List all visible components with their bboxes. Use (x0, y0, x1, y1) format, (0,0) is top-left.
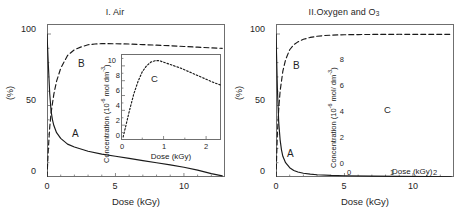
panel-2-inset-y-axis-label: Concentration (10-6 mol/ dm-3) (327, 67, 338, 168)
panel-1-curve-label-a: A (72, 128, 79, 139)
panel-2-xtick-5: 5 (331, 181, 357, 191)
panel-2-xtick-10: 10 (400, 181, 426, 191)
panel-1-xtick-0: 0 (34, 181, 60, 191)
panel-2-curve-label-a: A (287, 148, 294, 159)
panel-1-xtick-10: 10 (171, 181, 197, 191)
panel-2-curve-label-b: B (293, 60, 300, 71)
panel-1-title-text: I. Air (106, 7, 125, 17)
panel-1-inset-curve-label-c: C (151, 73, 158, 84)
panel-1-inset-xtick-2: 2 (198, 142, 214, 151)
panel-2-title-sub: 3 (376, 10, 380, 17)
panel-2-inset-ytick-8: 8 (328, 55, 344, 64)
panel-2-inset-x-axis-label: Dose (kGy) (392, 167, 432, 176)
panel-1-inset-y-axis-label: Concentration (10-6 mol dm-3) (100, 64, 111, 163)
panel-oxygen-ozone: II.Oxygen and O3 0 50 100 0 5 10 (%) Dos… (229, 0, 459, 224)
panel-2-y-axis-label: (%) (234, 86, 244, 100)
panel-2-ytick-100: 100 (239, 24, 265, 34)
panel-2-title-text: II.Oxygen and O (309, 7, 376, 17)
panel-air: I. Air 0 50 100 0 5 10 (%) Dose (kGy) B … (0, 0, 230, 224)
panel-2-plot-area (276, 24, 454, 177)
panel-2-x-axis-label: Dose (kGy) (276, 196, 454, 207)
panel-1-xtick-5: 5 (102, 181, 128, 191)
panel-1-x-axis-label: Dose (kGy) (47, 196, 225, 207)
panel-1-y-axis-label: (%) (5, 86, 15, 100)
panel-1-inset-x-axis-label: Dose (kGy) (121, 152, 221, 161)
panel-1-ytick-0: 0 (10, 166, 36, 176)
panel-2-inset-curve-label-c: C (384, 104, 391, 115)
panel-2-xtick-0: 0 (263, 181, 289, 191)
panel-1-ytick-100: 100 (10, 24, 36, 34)
panel-1-title: I. Air (0, 7, 230, 17)
figure-radiolysis-dose-response: I. Air 0 50 100 0 5 10 (%) Dose (kGy) B … (0, 0, 459, 224)
panel-1-inset-xtick-1: 1 (156, 142, 172, 151)
panel-2-ytick-0: 0 (239, 166, 265, 176)
panel-1-curve-label-b: B (78, 58, 85, 69)
panel-2-inset-xtick-0: 0 (341, 168, 357, 177)
panel-1-inset-plot-area (121, 54, 221, 140)
panel-2-title: II.Oxygen and O3 (229, 7, 459, 17)
panel-1-inset-xtick-0: 0 (114, 142, 130, 151)
